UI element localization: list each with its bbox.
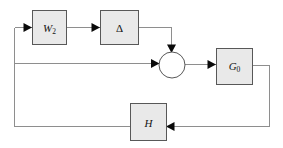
block-h[interactable]: H [131, 104, 167, 141]
wire-delta-to-sum [138, 28, 172, 53]
arrowhead-sum-left-input [151, 59, 160, 68]
arrowhead-w2-input [24, 23, 33, 32]
arrowhead-h-input [166, 122, 175, 131]
arrowhead-delta-input [92, 23, 101, 32]
arrowhead-g0-input [208, 60, 217, 69]
block-diagram-svg: W2 Δ G0 H [0, 0, 283, 148]
block-g0[interactable]: G0 [217, 49, 253, 85]
summing-junction[interactable] [159, 52, 185, 78]
block-w2[interactable]: W2 [33, 11, 67, 45]
summing-junction-circle [159, 52, 185, 78]
block-h-label: H [144, 117, 154, 129]
block-delta-label: Δ [116, 22, 123, 34]
block-diagram-canvas: W2 Δ G0 H [0, 0, 283, 148]
block-delta[interactable]: Δ [101, 11, 139, 45]
